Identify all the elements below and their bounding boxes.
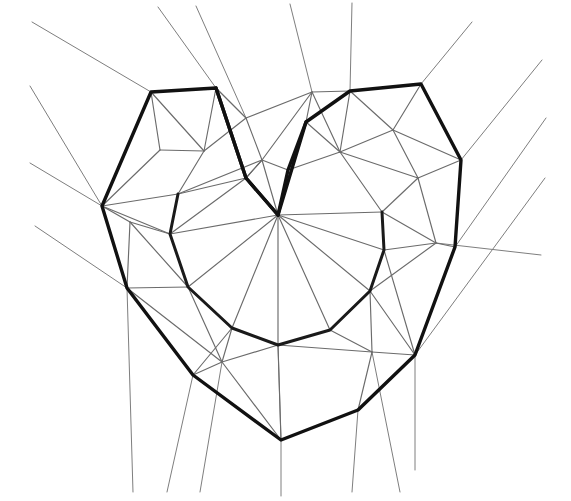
canvas-background (0, 0, 571, 501)
mesh-diagram (0, 0, 571, 501)
figure-root (0, 0, 571, 501)
